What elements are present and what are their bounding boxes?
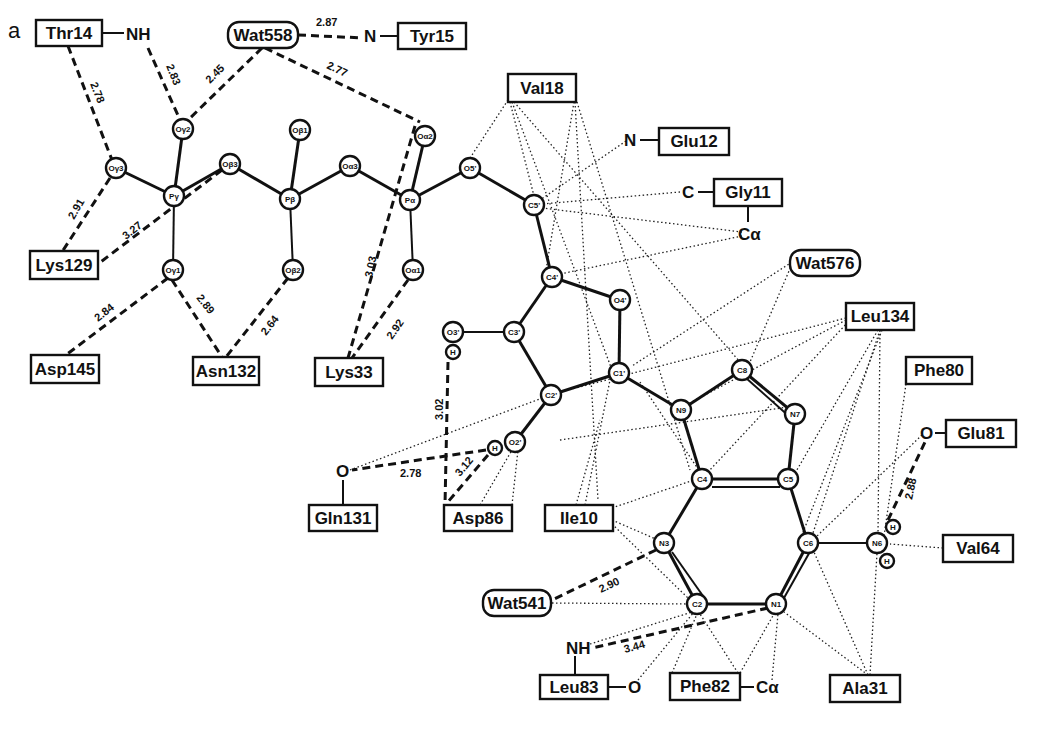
dist-Wat558-Og2: 2.45 (203, 62, 227, 86)
atom-Og3: Oγ3 (106, 158, 126, 178)
svg-text:C5': C5' (528, 201, 540, 210)
svg-text:H: H (890, 523, 896, 532)
atom-O3p: O3' (443, 322, 463, 342)
atom-H6b: H (880, 554, 894, 568)
atom-Pg: Pγ (164, 186, 184, 206)
svg-text:Leu83: Leu83 (549, 678, 598, 697)
svg-text:Asp145: Asp145 (35, 360, 95, 379)
residue-Leu134: Leu134 (846, 303, 914, 330)
dist-N6-Glu81: 2.88 (902, 477, 918, 500)
svg-text:Oγ2: Oγ2 (175, 125, 191, 134)
fragment-Glu81-O: O (920, 424, 933, 443)
atom-Oa3: Oα3 (340, 156, 360, 176)
svg-text:Val64: Val64 (956, 539, 1000, 558)
svg-text:C4': C4' (546, 273, 558, 282)
atom-Ob1: Oβ1 (290, 120, 310, 140)
fragment-Leu83-O: O (628, 678, 641, 697)
svg-text:Phe82: Phe82 (680, 677, 730, 696)
atom-C2: C2 (687, 594, 707, 614)
dist-H2p-Gln131: 2.78 (400, 467, 421, 479)
dist-Ob2-Asn132: 2.64 (258, 312, 281, 337)
svg-text:Wat541: Wat541 (488, 594, 547, 613)
residue-Tyr15: Tyr15 (398, 23, 466, 49)
residue-Thr14: Thr14 (36, 20, 102, 46)
svg-text:H: H (492, 444, 498, 453)
svg-text:C4: C4 (697, 475, 708, 484)
svg-text:Gln131: Gln131 (315, 509, 372, 528)
atom-C4p: C4' (542, 267, 562, 287)
svg-text:O4': O4' (614, 296, 627, 305)
atom-Pb: Pβ (280, 189, 300, 209)
interaction-diagram: Oγ3 Oγ2 Pγ Oγ1 Oβ3 Oβ1 Pβ Oβ2 Oα3 Oα2 Pα… (0, 0, 1038, 751)
atom-N1: N1 (766, 594, 786, 614)
svg-text:C2': C2' (545, 391, 557, 400)
dist-N3-Wat541: 2.90 (597, 575, 621, 595)
svg-text:N3: N3 (659, 539, 670, 548)
residue-Gly11: Gly11 (714, 179, 782, 206)
residue-Wat541: Wat541 (483, 590, 551, 616)
dist-Og3-Lys129: 2.91 (65, 196, 86, 221)
svg-text:Thr14: Thr14 (46, 24, 93, 43)
fragment-Gly11-Ca: Cα (738, 225, 761, 244)
atom-Ob2: Oβ2 (283, 260, 303, 280)
svg-text:Oγ1: Oγ1 (165, 266, 181, 275)
atom-N9: N9 (671, 400, 691, 420)
svg-text:Val18: Val18 (520, 79, 564, 98)
atom-H6a: H (886, 520, 900, 534)
residue-Phe80: Phe80 (906, 357, 972, 384)
svg-text:Oβ2: Oβ2 (285, 266, 301, 275)
svg-text:C1': C1' (613, 369, 625, 378)
svg-text:Oα1: Oα1 (405, 266, 421, 275)
dist-H2p-Asp86: 3.12 (452, 454, 475, 478)
residue-Asp86: Asp86 (444, 505, 512, 531)
svg-text:Lys129: Lys129 (35, 256, 92, 275)
atom-C5: C5 (778, 469, 798, 489)
svg-text:C3': C3' (508, 328, 520, 337)
residue-Val64: Val64 (943, 535, 1013, 562)
svg-text:N9: N9 (676, 406, 687, 415)
atom-C5p: C5' (524, 195, 544, 215)
dist-Oa2-Lys33: 3.03 (362, 255, 378, 278)
svg-text:N1: N1 (771, 600, 782, 609)
svg-text:Tyr15: Tyr15 (410, 27, 454, 46)
svg-text:Gly11: Gly11 (725, 183, 770, 202)
svg-text:N7: N7 (790, 410, 801, 419)
svg-text:Oα2: Oα2 (417, 132, 433, 141)
fragment-Gln131-O: O (336, 462, 349, 481)
atom-C2p: C2' (541, 385, 561, 405)
atom-N7: N7 (785, 404, 805, 424)
fragment-Thr14-NH: NH (126, 25, 151, 44)
svg-text:Pγ: Pγ (169, 192, 179, 201)
residue-Lys33: Lys33 (315, 358, 383, 386)
atom-Oa1: Oα1 (403, 260, 423, 280)
fragment-Phe82-Ca: Cα (756, 678, 779, 697)
residue-Gln131: Gln131 (309, 505, 377, 531)
svg-text:H: H (450, 348, 456, 357)
svg-text:Leu134: Leu134 (851, 307, 910, 326)
svg-text:Lys33: Lys33 (325, 363, 373, 382)
atom-Ob3: Oβ3 (220, 154, 240, 174)
dist-Thr14NH-Og2: 2.83 (164, 62, 183, 86)
atom-Pa: Pα (400, 190, 420, 210)
fragment-Gly11-C: C (682, 183, 694, 202)
residue-Ile10: Ile10 (545, 505, 613, 531)
svg-text:N6: N6 (872, 539, 883, 548)
atom-Og2: Oγ2 (173, 119, 193, 139)
residue-Ala31: Ala31 (830, 675, 900, 702)
fragment-Leu83-NH: NH (566, 639, 591, 658)
residue-Asn132: Asn132 (193, 357, 259, 385)
atom-C6: C6 (798, 533, 818, 553)
residue-Wat558: Wat558 (228, 22, 298, 48)
svg-text:Asn132: Asn132 (196, 362, 256, 381)
svg-text:H: H (884, 557, 890, 566)
atom-O4p: O4' (610, 290, 630, 310)
atom-H2p: H (488, 441, 502, 455)
svg-text:Asp86: Asp86 (452, 509, 503, 528)
svg-text:Oβ3: Oβ3 (222, 160, 238, 169)
atom-Og1: Oγ1 (163, 260, 183, 280)
residue-Wat576: Wat576 (790, 250, 860, 276)
distance-labels: 2.78 2.83 2.45 2.87 2.77 2.91 3.27 2.84 … (65, 16, 918, 655)
svg-text:O3': O3' (447, 328, 460, 337)
svg-text:C2: C2 (692, 600, 703, 609)
svg-text:Wat558: Wat558 (234, 26, 293, 45)
